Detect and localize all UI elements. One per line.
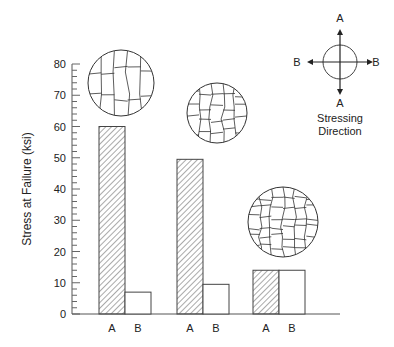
bar-1-b — [125, 292, 151, 314]
x-tick-labels: ABABAB — [108, 322, 295, 334]
bar-2-b — [203, 284, 229, 314]
legend-label-bottom: A — [336, 97, 344, 109]
y-tick-label: 70 — [54, 89, 66, 101]
bars — [99, 127, 305, 315]
x-tick-label: A — [186, 322, 194, 334]
legend-caption-line1: Stressing — [317, 112, 363, 124]
micrograph-1 — [88, 50, 154, 116]
y-axis: 01020304050607080 — [54, 58, 80, 320]
legend-label-right: B — [372, 56, 379, 68]
x-tick-label: B — [212, 322, 219, 334]
bar-3-a — [253, 270, 279, 314]
y-tick-label: 80 — [54, 58, 66, 70]
x-tick-label: A — [108, 322, 116, 334]
y-tick-label: 60 — [54, 121, 66, 133]
x-tick-label: B — [288, 322, 295, 334]
x-tick-label: A — [262, 322, 270, 334]
bar-1-a — [99, 127, 125, 315]
micrograph-3 — [248, 187, 318, 257]
legend-label-top: A — [336, 12, 344, 24]
stressing-direction-legend: A A B B Stressing Direction — [293, 12, 379, 137]
legend-caption-line2: Direction — [318, 125, 361, 137]
y-tick-label: 10 — [54, 277, 66, 289]
y-axis-label: Stress at Failure (ksi) — [20, 132, 34, 245]
y-tick-label: 30 — [54, 214, 66, 226]
chart: Stress at Failure (ksi) 0102030405060708… — [0, 0, 394, 347]
y-tick-label: 0 — [60, 308, 66, 320]
arrow-left-icon — [307, 59, 313, 65]
x-tick-label: B — [134, 322, 141, 334]
bar-3-b — [279, 270, 305, 314]
legend-label-left: B — [293, 56, 300, 68]
bar-2-a — [177, 159, 203, 314]
arrow-down-icon — [337, 89, 343, 95]
y-tick-label: 20 — [54, 246, 66, 258]
arrow-up-icon — [337, 29, 343, 35]
micrograph-2 — [187, 83, 247, 143]
y-tick-label: 50 — [54, 152, 66, 164]
y-tick-label: 40 — [54, 183, 66, 195]
